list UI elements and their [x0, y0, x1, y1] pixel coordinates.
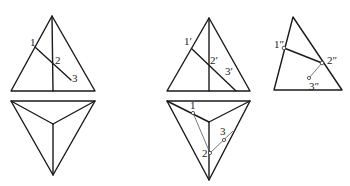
point-2	[208, 151, 211, 154]
label-point-2-prime: 2′	[210, 54, 218, 66]
figure1-top-view	[11, 101, 95, 175]
point-1	[191, 111, 194, 114]
line-1-2	[284, 48, 322, 63]
point-2-double-prime	[320, 61, 324, 65]
label-point-3: 3	[220, 125, 226, 137]
figure2-top-view: 1 2 3	[167, 99, 250, 180]
label-point-3-prime: 3′	[225, 65, 233, 77]
label-point-1: 1	[190, 99, 196, 111]
label-point-1: 1	[30, 36, 36, 48]
label-point-3: 3	[72, 72, 78, 84]
figure3-side-view: 1″ 2″ 3″	[274, 17, 342, 92]
label-point-1-double-prime: 1″	[274, 38, 284, 50]
figure2-front-view: 1′ 2′ 3′	[167, 18, 250, 91]
figure1-front-view: 1 2 3	[11, 16, 95, 91]
label-point-2: 2	[55, 54, 61, 66]
label-point-2: 2	[202, 147, 208, 159]
projection-diagram: 1 2 3 1′ 2′ 3′ 1 2 3	[0, 0, 350, 186]
label-point-2-double-prime: 2″	[327, 54, 337, 66]
pyramid-edge	[52, 16, 53, 91]
line-2-3	[309, 63, 322, 78]
label-point-1-prime: 1′	[184, 35, 192, 47]
point-3	[222, 138, 225, 141]
label-point-3-double-prime: 3″	[309, 80, 319, 92]
